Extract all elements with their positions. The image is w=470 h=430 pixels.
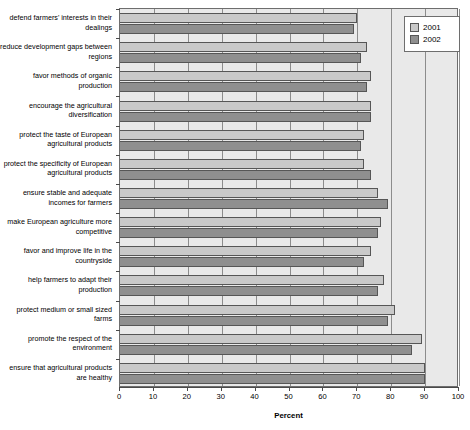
y-axis-tick bbox=[116, 96, 120, 97]
x-axis-tick-label-40: 40 bbox=[240, 392, 270, 401]
bar-2001 bbox=[120, 275, 384, 285]
bar-group bbox=[120, 242, 457, 271]
x-axis-title: Percent bbox=[119, 411, 458, 420]
x-axis-tick-50 bbox=[289, 387, 290, 391]
legend-entry-2001: 2001 bbox=[410, 23, 455, 32]
y-axis-tick bbox=[116, 155, 120, 156]
y-axis-tick bbox=[116, 9, 120, 10]
bar-2001 bbox=[120, 42, 367, 52]
x-axis-tick-label-90: 90 bbox=[409, 392, 439, 401]
category-label: favor methods of organic production bbox=[0, 71, 112, 90]
bar-2001 bbox=[120, 217, 381, 227]
bar-2002 bbox=[120, 228, 378, 238]
category-label: protect the taste of European agricultur… bbox=[0, 130, 112, 149]
bar-2001 bbox=[120, 13, 357, 23]
y-axis-tick bbox=[116, 67, 120, 68]
category-label: protect medium or small sized farms bbox=[0, 305, 112, 324]
y-axis-tick bbox=[116, 213, 120, 214]
legend-label-2002: 2002 bbox=[423, 35, 441, 44]
legend-swatch-2002 bbox=[410, 35, 419, 44]
bar-2002 bbox=[120, 24, 354, 34]
bar-2001 bbox=[120, 334, 422, 344]
x-axis-tick-label-50: 50 bbox=[274, 392, 304, 401]
x-axis-tick-label-30: 30 bbox=[206, 392, 236, 401]
bar-2002 bbox=[120, 141, 361, 151]
x-axis-tick-0 bbox=[119, 387, 120, 391]
y-axis-tick bbox=[116, 301, 120, 302]
x-axis-tick-label-0: 0 bbox=[104, 392, 134, 401]
bar-2002 bbox=[120, 53, 361, 63]
x-axis-tick-100 bbox=[458, 387, 459, 391]
legend-swatch-2001 bbox=[410, 23, 419, 32]
category-label: defend farmers' interests in their deali… bbox=[0, 13, 112, 32]
y-axis-tick bbox=[116, 38, 120, 39]
x-axis-tick-30 bbox=[221, 387, 222, 391]
bar-2002 bbox=[120, 316, 388, 326]
bar-2001 bbox=[120, 305, 395, 315]
bar-2002 bbox=[120, 82, 367, 92]
bar-2001 bbox=[120, 363, 425, 373]
gridline-100 bbox=[459, 9, 460, 386]
bar-2002 bbox=[120, 170, 371, 180]
bar-2002 bbox=[120, 374, 425, 384]
y-axis-tick bbox=[116, 330, 120, 331]
x-axis-tick-label-80: 80 bbox=[375, 392, 405, 401]
x-axis-tick-label-70: 70 bbox=[341, 392, 371, 401]
bar-2001 bbox=[120, 246, 371, 256]
category-label: make European agriculture more competiti… bbox=[0, 217, 112, 236]
x-axis-tick-20 bbox=[187, 387, 188, 391]
y-axis-tick bbox=[116, 184, 120, 185]
category-label: reduce development gaps between regions bbox=[0, 42, 112, 61]
bar-group bbox=[120, 213, 457, 242]
bar-2001 bbox=[120, 159, 364, 169]
x-axis-tick-10 bbox=[153, 387, 154, 391]
bar-2001 bbox=[120, 101, 371, 111]
bar-group bbox=[120, 67, 457, 96]
bar-2002 bbox=[120, 199, 388, 209]
x-axis-tick-40 bbox=[255, 387, 256, 391]
category-axis-labels: defend farmers' interests in their deali… bbox=[0, 8, 116, 387]
category-label: promote the respect of the environment bbox=[0, 334, 112, 353]
category-label: protect the specificity of European agri… bbox=[0, 159, 112, 178]
category-label: ensure stable and adequate incomes for f… bbox=[0, 188, 112, 207]
category-label: help farmers to adapt their production bbox=[0, 275, 112, 294]
bar-2002 bbox=[120, 112, 371, 122]
x-axis-tick-80 bbox=[390, 387, 391, 391]
bar-2001 bbox=[120, 188, 378, 198]
bars-layer bbox=[120, 9, 457, 386]
bar-group bbox=[120, 96, 457, 125]
x-axis-tick-label-100: 100 bbox=[443, 392, 470, 401]
legend-entry-2002: 2002 bbox=[410, 35, 455, 44]
category-label: encourage the agricultural diversificati… bbox=[0, 101, 112, 120]
bar-2001 bbox=[120, 130, 364, 140]
bar-2002 bbox=[120, 286, 378, 296]
x-axis-tick-60 bbox=[322, 387, 323, 391]
bar-2002 bbox=[120, 257, 364, 267]
x-axis-tick-label-10: 10 bbox=[138, 392, 168, 401]
y-axis-tick bbox=[116, 242, 120, 243]
category-label: favor and improve life in the countrysid… bbox=[0, 246, 112, 265]
bar-group bbox=[120, 184, 457, 213]
bar-group bbox=[120, 271, 457, 300]
x-axis-tick-label-20: 20 bbox=[172, 392, 202, 401]
bar-group bbox=[120, 155, 457, 184]
bar-2002 bbox=[120, 345, 412, 355]
y-axis-tick bbox=[116, 359, 120, 360]
category-label: ensure that agricultural products are he… bbox=[0, 363, 112, 382]
y-axis-tick bbox=[116, 271, 120, 272]
horizontal-bar-chart: defend farmers' interests in their deali… bbox=[0, 0, 470, 430]
plot-area bbox=[119, 8, 458, 387]
x-axis-tick-90 bbox=[424, 387, 425, 391]
legend-label-2001: 2001 bbox=[423, 23, 441, 32]
x-axis-tick-70 bbox=[356, 387, 357, 391]
x-axis-tick-label-60: 60 bbox=[307, 392, 337, 401]
bar-group bbox=[120, 359, 457, 388]
bar-group bbox=[120, 126, 457, 155]
bar-2001 bbox=[120, 71, 371, 81]
chart-legend: 2001 2002 bbox=[404, 16, 460, 52]
bar-group bbox=[120, 301, 457, 330]
bar-group bbox=[120, 330, 457, 359]
y-axis-tick bbox=[116, 126, 120, 127]
